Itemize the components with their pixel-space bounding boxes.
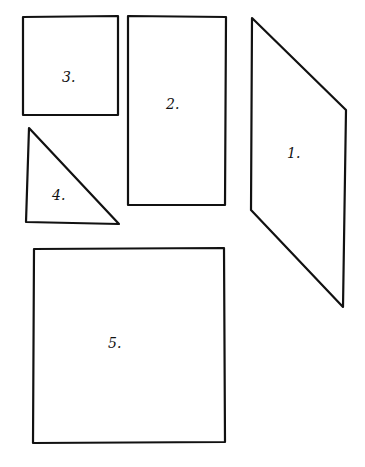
shape-5-square: 5.: [33, 248, 225, 443]
shape-3-square: 3.: [23, 16, 118, 115]
shapes-diagram: 1. 2. 3. 4. 5.: [0, 0, 365, 467]
shape-2-rectangle: 2.: [128, 16, 226, 205]
triangle-outline: [26, 128, 119, 224]
shape-4-label: 4.: [51, 187, 65, 203]
shape-3-label: 3.: [62, 69, 75, 85]
shape-2-label: 2.: [165, 96, 179, 112]
shape-1-parallelogram: 1.: [251, 18, 346, 307]
small-square-outline: [23, 16, 118, 115]
parallelogram-outline: [251, 18, 346, 307]
shape-4-triangle: 4.: [26, 128, 119, 224]
shape-5-label: 5.: [108, 335, 121, 351]
shape-1-label: 1.: [287, 145, 300, 161]
large-square-outline: [33, 248, 225, 443]
